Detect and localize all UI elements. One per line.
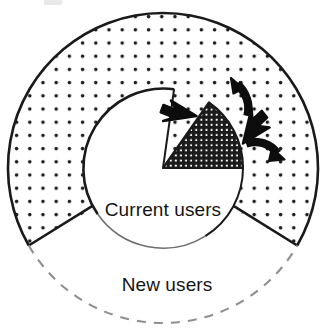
label-new-users: New users xyxy=(122,274,213,295)
diagram-root: Current users New users xyxy=(0,0,334,332)
users-ring-diagram: Current users New users xyxy=(0,0,334,332)
label-current-users: Current users xyxy=(105,199,221,220)
